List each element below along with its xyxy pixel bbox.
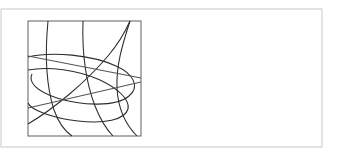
outer-border <box>1 9 322 147</box>
figure-canvas <box>0 0 337 160</box>
figure-container <box>0 0 337 160</box>
